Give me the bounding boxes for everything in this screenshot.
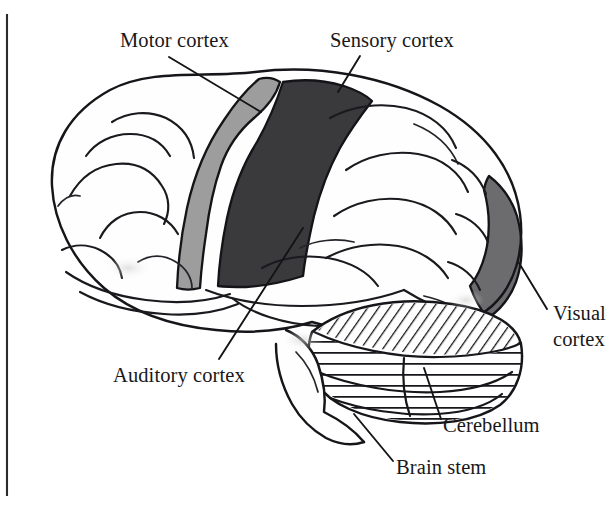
- brain-diagram-figure: Motor cortex Sensory cortex Visual corte…: [0, 0, 615, 506]
- label-visual-cortex-line1: Visual: [553, 302, 606, 324]
- label-cerebellum: Cerebellum: [443, 414, 540, 436]
- label-auditory-cortex: Auditory cortex: [113, 364, 245, 387]
- label-sensory-cortex: Sensory cortex: [330, 29, 454, 52]
- stipple-texture-2: [280, 329, 324, 351]
- label-visual-cortex-line2: cortex: [553, 328, 605, 350]
- stipple-texture-1: [104, 256, 152, 280]
- label-brain-stem: Brain stem: [396, 456, 486, 478]
- stipple-texture-3: [448, 290, 484, 310]
- brain-diagram-canvas: Motor cortex Sensory cortex Visual corte…: [0, 0, 615, 506]
- label-motor-cortex: Motor cortex: [120, 29, 229, 51]
